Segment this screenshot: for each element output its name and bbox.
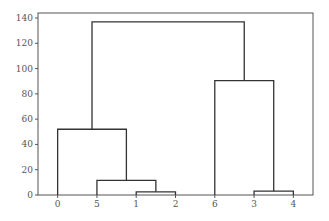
y-tick-label: 60 (22, 114, 34, 124)
x-leaf-label: 1 (133, 199, 139, 209)
y-tick-label: 20 (22, 165, 34, 175)
y-axis-ticks: 020406080100120140 (16, 13, 38, 200)
x-leaf-label: 6 (212, 199, 218, 209)
dendrogram-link (215, 81, 274, 195)
y-tick-label: 140 (16, 13, 33, 23)
y-tick-label: 100 (16, 64, 33, 74)
y-tick-label: 80 (22, 89, 34, 99)
x-leaf-label: 3 (251, 199, 257, 209)
y-tick-label: 120 (16, 38, 33, 48)
dendrogram-link (92, 22, 244, 129)
y-tick-label: 40 (22, 139, 34, 149)
dendrogram-links (58, 22, 294, 195)
dendrogram-link (58, 129, 127, 195)
x-axis-leaf-labels: 0512634 (55, 195, 297, 209)
dendrogram-chart: 020406080100120140 0512634 (0, 0, 329, 221)
x-leaf-label: 5 (94, 199, 100, 209)
plot-area-border (38, 13, 313, 195)
x-leaf-label: 4 (290, 199, 296, 209)
x-leaf-label: 2 (173, 199, 179, 209)
axes-frame (38, 13, 313, 195)
dendrogram-link (254, 191, 293, 195)
x-leaf-label: 0 (55, 199, 61, 209)
y-tick-label: 0 (27, 190, 33, 200)
dendrogram-link (97, 180, 156, 195)
